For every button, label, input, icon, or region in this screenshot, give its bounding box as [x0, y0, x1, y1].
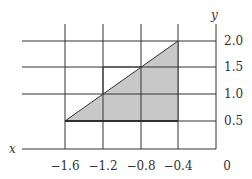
y-tick-1.5: 1.5 — [224, 60, 243, 74]
x-tick--1.6: −1.6 — [50, 159, 79, 173]
y-tick-1.0: 1.0 — [224, 87, 243, 101]
x-tick--1.2: −1.2 — [88, 159, 117, 173]
region-diagram: y x 2.0 1.5 1.0 0.5 −1.6 −1.2 −0.8 −0.4 … — [0, 0, 252, 179]
y-axis-label: y — [210, 8, 218, 22]
y-tick-0.5: 0.5 — [224, 114, 243, 128]
origin-label: 0 — [223, 159, 231, 173]
x-tick--0.8: −0.8 — [126, 159, 155, 173]
shaded-triangle — [65, 41, 178, 121]
x-axis-label: x — [9, 142, 16, 156]
y-tick-2.0: 2.0 — [224, 34, 243, 48]
x-tick--0.4: −0.4 — [163, 159, 193, 173]
